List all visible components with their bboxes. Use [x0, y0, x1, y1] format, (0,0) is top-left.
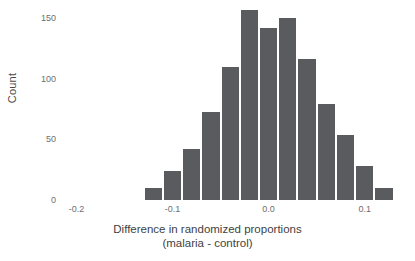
plot-panel — [62, 6, 408, 200]
x-axis-label-line2: (malaria - control) — [0, 236, 415, 250]
bars-container — [62, 6, 408, 200]
histogram-bar — [144, 188, 163, 200]
x-axis-tick-label: 0.1 — [358, 204, 371, 214]
histogram-bar — [374, 188, 393, 200]
y-axis-tick-label: 150 — [22, 13, 56, 23]
y-axis-tick-label: 100 — [22, 74, 56, 84]
histogram-bar — [201, 112, 220, 201]
x-axis-label: Difference in randomized proportions (ma… — [0, 222, 415, 250]
x-axis-tick-label: 0.0 — [262, 204, 275, 214]
x-axis-tick-label: -0.1 — [165, 204, 181, 214]
y-axis-label: Count — [6, 58, 18, 118]
x-axis-tick-labels: -0.2-0.10.00.1 — [0, 204, 415, 220]
histogram-bar — [221, 67, 240, 200]
x-axis-tick-label: -0.2 — [69, 204, 85, 214]
histogram-bar — [259, 28, 278, 200]
histogram-bar — [297, 59, 316, 200]
histogram-bar — [317, 104, 336, 200]
histogram-bar — [278, 18, 297, 200]
histogram-bar — [336, 135, 355, 200]
x-axis-label-line1: Difference in randomized proportions — [113, 223, 301, 235]
histogram-figure: Count 050100150 -0.2-0.10.00.1 Differenc… — [0, 0, 415, 261]
histogram-bar — [240, 10, 259, 200]
histogram-bar — [182, 149, 201, 200]
y-axis-tick-label: 50 — [22, 134, 56, 144]
histogram-bar — [163, 171, 182, 200]
histogram-bar — [355, 166, 374, 200]
